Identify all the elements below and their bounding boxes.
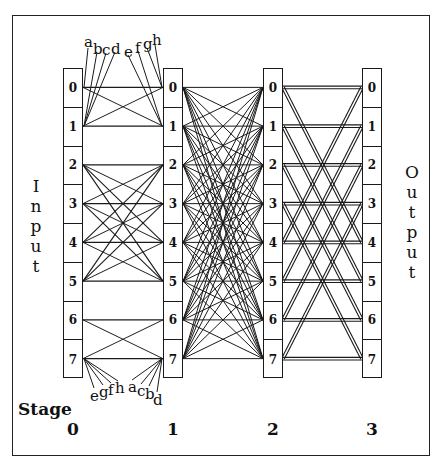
bottom-label-a: a (128, 378, 137, 396)
node-1-4: 4 (164, 224, 182, 263)
stage-number-2: 2 (263, 419, 283, 439)
top-label-c: c (102, 41, 110, 59)
node-3-3: 3 (363, 185, 381, 224)
node-3-2: 2 (363, 147, 381, 186)
node-2-2: 2 (264, 147, 282, 186)
node-2-7: 7 (264, 340, 282, 379)
node-2-6: 6 (264, 302, 282, 341)
node-0-7: 7 (64, 340, 82, 379)
node-0-5: 5 (64, 263, 82, 302)
stage-column-0: 01234567 (63, 68, 83, 378)
node-3-0: 0 (363, 69, 381, 108)
node-2-3: 3 (264, 185, 282, 224)
node-1-1: 1 (164, 108, 182, 147)
node-0-0: 0 (64, 69, 82, 108)
node-2-4: 4 (264, 224, 282, 263)
bottom-label-h: h (115, 379, 125, 397)
node-3-7: 7 (363, 340, 381, 379)
node-3-4: 4 (363, 224, 381, 263)
top-label-f: f (135, 39, 141, 57)
node-1-2: 2 (164, 147, 182, 186)
input-label: Input (26, 176, 46, 276)
stage-label: Stage (18, 399, 72, 419)
node-1-7: 7 (164, 340, 182, 379)
bottom-label-e: e (90, 387, 99, 405)
node-0-4: 4 (64, 224, 82, 263)
node-3-5: 5 (363, 263, 381, 302)
node-0-2: 2 (64, 147, 82, 186)
top-label-a: a (84, 33, 93, 51)
stage-column-3: 01234567 (362, 68, 382, 378)
bottom-label-f: f (108, 381, 114, 399)
stage-column-2: 01234567 (263, 68, 283, 378)
node-0-6: 6 (64, 302, 82, 341)
output-label: Output (402, 162, 422, 282)
node-2-1: 1 (264, 108, 282, 147)
stage-number-0: 0 (63, 419, 83, 439)
bottom-label-d: d (153, 391, 163, 409)
stage-column-1: 01234567 (163, 68, 183, 378)
node-2-0: 0 (264, 69, 282, 108)
top-label-h: h (152, 31, 162, 49)
node-1-5: 5 (164, 263, 182, 302)
stage-number-3: 3 (362, 419, 382, 439)
node-1-6: 6 (164, 302, 182, 341)
node-3-6: 6 (363, 302, 381, 341)
node-0-1: 1 (64, 108, 82, 147)
node-1-0: 0 (164, 69, 182, 108)
node-3-1: 1 (363, 108, 381, 147)
node-1-3: 3 (164, 185, 182, 224)
top-label-e: e (124, 43, 133, 61)
top-label-d: d (111, 40, 121, 58)
stage-number-1: 1 (163, 419, 183, 439)
node-0-3: 3 (64, 185, 82, 224)
node-2-5: 5 (264, 263, 282, 302)
